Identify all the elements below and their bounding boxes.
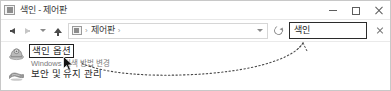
breadcrumb[interactable]: › 제어판 › xyxy=(68,23,268,39)
up-button[interactable] xyxy=(50,23,65,39)
minimize-icon xyxy=(329,10,337,11)
list-item[interactable]: 색인 옵션 Windows 검색 방법 변경 xyxy=(1,44,390,66)
refresh-icon xyxy=(272,25,284,37)
close-icon xyxy=(374,6,383,15)
control-panel-window: 색인 - 제어판 xyxy=(0,0,391,91)
breadcrumb-separator: › xyxy=(85,27,88,35)
forward-button[interactable] xyxy=(20,23,35,39)
breadcrumb-separator: › xyxy=(118,27,121,35)
search-input[interactable]: 색인 xyxy=(289,22,367,39)
title-bar[interactable]: 색인 - 제어판 xyxy=(1,1,390,20)
chevron-down-icon xyxy=(40,29,46,32)
indexing-options-icon xyxy=(8,45,25,62)
chevron-down-icon[interactable] xyxy=(257,29,263,32)
window-controls xyxy=(321,1,390,20)
close-icon xyxy=(376,27,383,34)
recent-locations-button[interactable] xyxy=(35,23,50,39)
minimize-button[interactable] xyxy=(321,1,344,20)
control-panel-icon xyxy=(4,5,16,16)
control-panel-icon xyxy=(72,26,82,35)
search-input-value: 색인 xyxy=(294,26,310,35)
security-maintenance-icon xyxy=(8,67,25,84)
arrow-up-icon xyxy=(54,28,62,33)
arrow-right-icon xyxy=(25,28,30,34)
list-item[interactable]: 보안 및 유지 관리 xyxy=(1,66,390,88)
arrow-left-icon xyxy=(10,28,15,34)
maximize-icon xyxy=(352,7,360,15)
search-clear-button[interactable] xyxy=(368,22,390,39)
close-button[interactable] xyxy=(367,1,390,20)
breadcrumb-item-control-panel[interactable]: 제어판 xyxy=(91,26,115,35)
search-results-list: 색인 옵션 Windows 검색 방법 변경 보안 및 유지 관리 xyxy=(1,42,390,89)
window-title: 색인 - 제어판 xyxy=(20,6,67,15)
list-item-texts: 보안 및 유지 관리 xyxy=(29,66,102,79)
back-button[interactable] xyxy=(5,23,20,39)
navigation-bar: › 제어판 › 색인 xyxy=(1,20,390,42)
list-item-title[interactable]: 색인 옵션 xyxy=(29,44,74,58)
list-item-title[interactable]: 보안 및 유지 관리 xyxy=(31,68,102,79)
refresh-button[interactable] xyxy=(270,23,286,39)
list-item-texts: 색인 옵션 Windows 검색 방법 변경 xyxy=(29,44,110,68)
maximize-button[interactable] xyxy=(344,1,367,20)
